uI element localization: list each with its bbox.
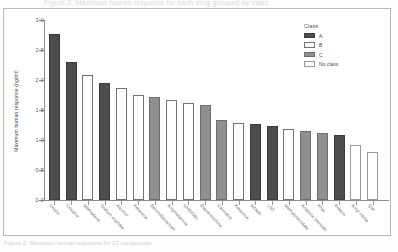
- y-tick-label: 3.0: [16, 17, 44, 23]
- bar-slot: [250, 20, 261, 200]
- bar[interactable]: [267, 126, 278, 200]
- bar[interactable]: [133, 95, 144, 200]
- bar[interactable]: [149, 97, 160, 200]
- bar[interactable]: [183, 103, 194, 200]
- x-axis-label: Ketamine: [132, 203, 149, 221]
- bar-slot: [66, 20, 77, 200]
- bar-slot: [166, 20, 177, 200]
- x-axis-label: Insulin: [49, 203, 62, 216]
- legend-rows: ABCNo class: [304, 32, 370, 69]
- x-axis-label: Alcohol: [116, 203, 130, 217]
- legend-item-b[interactable]: B: [304, 41, 370, 49]
- legend-label: A: [319, 33, 322, 39]
- bar[interactable]: [49, 34, 60, 200]
- bar[interactable]: [334, 135, 345, 200]
- x-axis-line: [44, 200, 389, 201]
- top-caption: Figure 2. Maximum human response for eac…: [44, 0, 364, 8]
- bar-slot: [233, 20, 244, 200]
- x-axis-label: Qat: [367, 203, 376, 212]
- bar[interactable]: [82, 75, 93, 200]
- bar-slot: [133, 20, 144, 200]
- bar[interactable]: [200, 105, 211, 200]
- bar-slot: [49, 20, 60, 200]
- y-tick-label: 1.5: [16, 107, 44, 113]
- y-tick-0.5: 0.5: [4, 170, 44, 171]
- y-tick-label: 0.5: [16, 167, 44, 173]
- x-axis-label: MDMA: [250, 203, 263, 217]
- bar[interactable]: [66, 62, 77, 200]
- x-axis-label: Ketamine: [233, 203, 250, 221]
- bar[interactable]: [283, 129, 294, 200]
- bar-slot: [283, 20, 294, 200]
- bar-slot: [200, 20, 211, 200]
- legend-label: No class: [319, 61, 338, 67]
- legend-item-c[interactable]: C: [304, 51, 370, 59]
- bar-slot: [82, 20, 93, 200]
- y-tick-1.5: 1.5: [4, 110, 44, 111]
- legend-item-a[interactable]: A: [304, 32, 370, 40]
- x-axis-label: Cocaine: [65, 203, 80, 219]
- y-tick-label: 0.0: [16, 197, 44, 203]
- x-axis-label: Cannabis: [216, 203, 233, 221]
- x-axis-label: LSD: [266, 203, 276, 213]
- legend-label: B: [319, 42, 322, 48]
- plot-area: Maximum human response (ng/ml) 0.00.51.0…: [4, 9, 392, 237]
- figure-frame: Maximum human response (ng/ml) 0.00.51.0…: [3, 8, 391, 236]
- bar[interactable]: [367, 152, 378, 200]
- legend-swatch-icon: [304, 33, 315, 39]
- bar-slot: [116, 20, 127, 200]
- bar-slot: [149, 20, 160, 200]
- bar-slot: [99, 20, 110, 200]
- figure-page: Figure 2. Maximum human response for eac…: [0, 0, 398, 252]
- legend-label: C: [319, 52, 323, 58]
- y-tick-2.0: 2.0: [4, 80, 44, 81]
- bar[interactable]: [166, 100, 177, 200]
- bar-slot: [216, 20, 227, 200]
- bar[interactable]: [350, 145, 361, 200]
- bottom-caption: Figure 2. Maximum human exposure for 22 …: [4, 240, 244, 250]
- y-tick-label: 2.5: [16, 47, 44, 53]
- bar-slot: [267, 20, 278, 200]
- x-axis-label: Kratom: [333, 203, 347, 217]
- x-axis-label: Khat: [317, 203, 327, 213]
- bar[interactable]: [116, 88, 127, 200]
- bar-slot: [183, 20, 194, 200]
- bar[interactable]: [216, 120, 227, 200]
- legend-swatch-icon: [304, 42, 315, 48]
- bar[interactable]: [250, 124, 261, 200]
- legend-title: Class: [304, 23, 370, 29]
- y-tick-label: 1.0: [16, 137, 44, 143]
- bar[interactable]: [317, 133, 328, 200]
- y-tick-2.5: 2.5: [4, 50, 44, 51]
- bar[interactable]: [300, 131, 311, 200]
- legend-swatch-icon: [304, 61, 315, 67]
- legend: Class ABCNo class: [304, 23, 370, 70]
- legend-item-n[interactable]: No class: [304, 60, 370, 68]
- y-tick-3.0: 3.0: [4, 20, 44, 21]
- y-tick-0.0: 0.0: [4, 200, 44, 201]
- y-tick-label: 2.0: [16, 77, 44, 83]
- y-tick-1.0: 1.0: [4, 140, 44, 141]
- legend-swatch-icon: [304, 52, 315, 58]
- bar[interactable]: [99, 83, 110, 200]
- bar[interactable]: [233, 123, 244, 200]
